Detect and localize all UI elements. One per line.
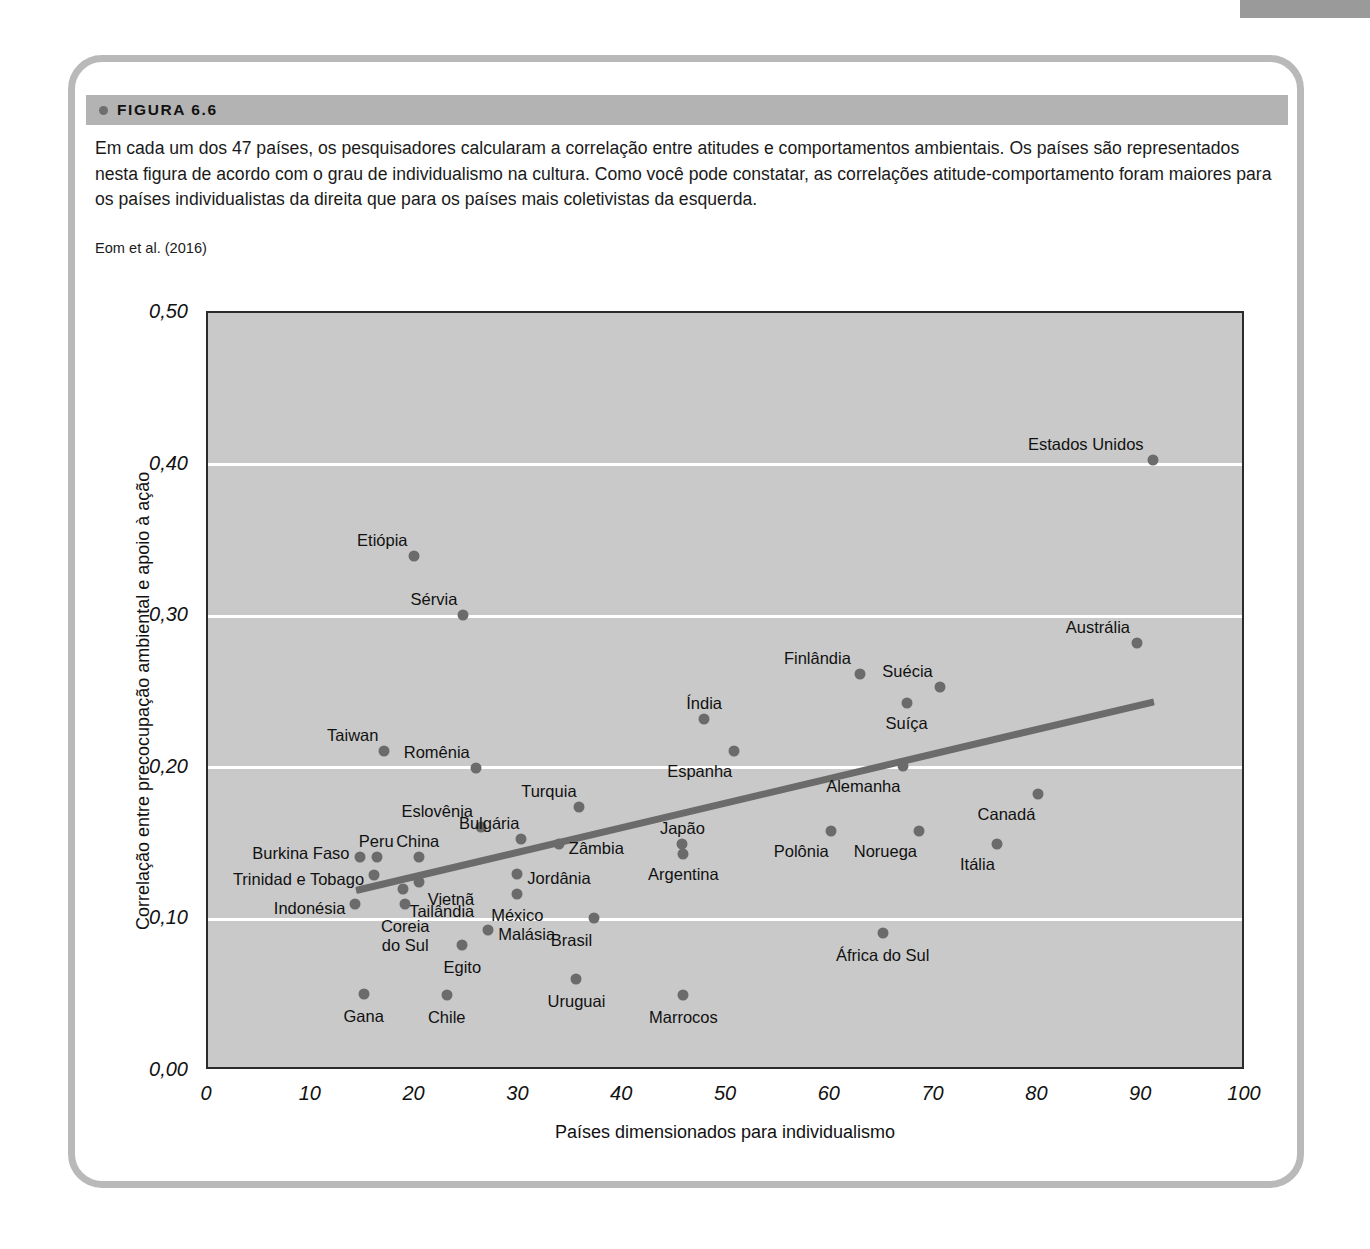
x-tick-label: 80 — [1025, 1082, 1047, 1105]
data-point — [914, 826, 925, 837]
point-label: Sérvia — [411, 590, 458, 609]
data-point — [354, 852, 365, 863]
point-label: Estados Unidos — [1028, 435, 1144, 454]
data-point — [898, 761, 909, 772]
data-point — [379, 746, 390, 757]
point-label: Malásia — [498, 925, 555, 944]
data-point — [408, 550, 419, 561]
point-label: Egito — [443, 958, 481, 977]
point-label: Finlândia — [784, 649, 851, 668]
data-point — [1033, 788, 1044, 799]
data-point — [825, 826, 836, 837]
data-point — [512, 888, 523, 899]
data-point — [483, 925, 494, 936]
data-point — [678, 849, 689, 860]
point-label: Marrocos — [649, 1008, 718, 1027]
data-point — [934, 682, 945, 693]
point-label: Polônia — [774, 842, 829, 861]
data-point — [1147, 455, 1158, 466]
point-label: Uruguai — [548, 992, 606, 1011]
point-label: Bulgária — [459, 814, 520, 833]
x-tick-label: 20 — [402, 1082, 424, 1105]
x-tick-label: 40 — [610, 1082, 632, 1105]
data-point — [512, 868, 523, 879]
figure-page: FIGURA 6.6 Em cada um dos 47 países, os … — [0, 0, 1370, 1249]
y-axis-title-text: Correlação entre precocupação ambiental … — [133, 472, 154, 930]
gridline — [208, 918, 1242, 921]
point-label: Alemanha — [826, 777, 900, 796]
point-label: Zâmbia — [569, 839, 624, 858]
y-tick-label: 0,20 — [149, 754, 188, 777]
data-point — [441, 990, 452, 1001]
point-label: Índia — [686, 694, 722, 713]
point-label: Espanha — [667, 762, 732, 781]
data-point — [470, 762, 481, 773]
data-point — [729, 746, 740, 757]
gridline — [208, 463, 1242, 466]
point-label: Indonésia — [274, 899, 346, 918]
plot-area: Estados UnidosAustráliaEtiópiaSérviaFinl… — [206, 311, 1244, 1069]
scatter-chart: Estados UnidosAustráliaEtiópiaSérviaFinl… — [0, 0, 1370, 1249]
y-axis-title: Correlação entre precocupação ambiental … — [105, 430, 145, 930]
x-tick-label: 100 — [1227, 1082, 1260, 1105]
x-tick-label: 70 — [921, 1082, 943, 1105]
point-label: Noruega — [854, 842, 917, 861]
data-point — [398, 884, 409, 895]
point-label: Coreiado Sul — [381, 917, 430, 955]
point-label: México — [491, 906, 543, 925]
point-label: Romênia — [404, 743, 470, 762]
point-label: Taiwan — [327, 726, 378, 745]
point-label: Chile — [428, 1008, 466, 1027]
data-point — [677, 838, 688, 849]
point-label: Jordânia — [527, 869, 590, 888]
data-point — [553, 838, 564, 849]
data-point — [350, 899, 361, 910]
point-label: Peru — [359, 832, 394, 851]
data-point — [413, 876, 424, 887]
point-label: Japão — [660, 819, 705, 838]
data-point — [1132, 638, 1143, 649]
point-label: Argentina — [648, 865, 719, 884]
data-point — [457, 940, 468, 951]
data-point — [571, 973, 582, 984]
point-label: Etiópia — [357, 531, 407, 550]
x-tick-label: 10 — [299, 1082, 321, 1105]
gridline — [208, 615, 1242, 618]
x-axis-ticks: 0102030405060708090100 — [206, 1082, 1244, 1112]
x-tick-label: 0 — [200, 1082, 211, 1105]
y-tick-label: 0,30 — [149, 603, 188, 626]
point-label: Trinidad e Tobago — [233, 870, 364, 889]
data-point — [369, 870, 380, 881]
x-tick-label: 30 — [506, 1082, 528, 1105]
point-label: Brasil — [551, 931, 592, 950]
x-tick-label: 90 — [1129, 1082, 1151, 1105]
x-tick-label: 50 — [714, 1082, 736, 1105]
data-point — [854, 668, 865, 679]
point-label: Austrália — [1066, 618, 1130, 637]
data-point — [678, 990, 689, 1001]
y-tick-label: 0,40 — [149, 451, 188, 474]
point-label: Canadá — [978, 805, 1036, 824]
data-point — [358, 988, 369, 999]
point-label: Gana — [344, 1007, 384, 1026]
point-label: Suíça — [885, 714, 927, 733]
data-point — [458, 609, 469, 620]
data-point — [413, 852, 424, 863]
data-point — [516, 834, 527, 845]
y-tick-label: 0,00 — [149, 1058, 188, 1081]
y-tick-label: 0,10 — [149, 906, 188, 929]
data-point — [589, 912, 600, 923]
data-point — [372, 852, 383, 863]
point-label: China — [396, 832, 439, 851]
point-label: Itália — [960, 855, 995, 874]
data-point — [573, 802, 584, 813]
x-tick-label: 60 — [818, 1082, 840, 1105]
point-label: África do Sul — [836, 946, 930, 965]
point-label: Suécia — [882, 662, 932, 681]
point-label: Burkina Faso — [252, 844, 349, 863]
data-point — [699, 714, 710, 725]
x-axis-title: Países dimensionados para individualismo — [206, 1122, 1244, 1143]
point-label: Turquia — [521, 782, 576, 801]
data-point — [400, 899, 411, 910]
data-point — [877, 928, 888, 939]
